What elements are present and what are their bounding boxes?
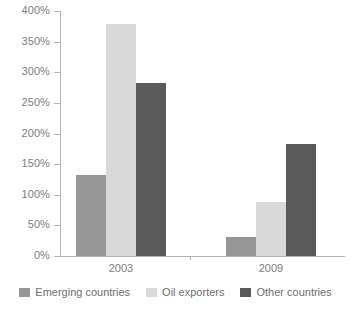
y-axis-tick-label: 150% [0, 158, 50, 169]
x-axis-group-separator [190, 256, 191, 260]
y-axis-tick-label: 350% [0, 36, 50, 47]
legend-item[interactable]: Other countries [240, 286, 331, 298]
legend-label: Emerging countries [35, 286, 130, 298]
y-axis-tick-label: 0% [0, 250, 50, 261]
y-axis-tick-label: 400% [0, 5, 50, 16]
bar [136, 83, 166, 256]
y-axis-tick-mark [54, 11, 60, 12]
bar [106, 24, 136, 256]
y-axis-tick-mark [54, 134, 60, 135]
y-axis-tick-mark [54, 256, 60, 257]
x-axis-label: 2003 [76, 262, 166, 275]
y-axis-tick-label: 300% [0, 66, 50, 77]
bar-chart: 400%350%300%250%200%150%100%50%0% 200320… [0, 0, 351, 309]
legend-item[interactable]: Oil exporters [146, 286, 224, 298]
legend-swatch-icon [240, 288, 251, 297]
bar [226, 237, 256, 256]
y-axis-tick-mark [54, 164, 60, 165]
bar [286, 144, 316, 256]
y-axis-tick-mark [54, 103, 60, 104]
legend-swatch-icon [19, 288, 30, 297]
bar [256, 202, 286, 256]
legend-label: Oil exporters [162, 286, 224, 298]
y-axis-tick-mark [54, 42, 60, 43]
legend-label: Other countries [256, 286, 331, 298]
x-axis-line [60, 256, 345, 257]
legend-item[interactable]: Emerging countries [19, 286, 130, 298]
legend-swatch-icon [146, 288, 157, 297]
x-axis-label: 2009 [226, 262, 316, 275]
y-axis-tick-label: 100% [0, 189, 50, 200]
y-axis-tick-label: 200% [0, 128, 50, 139]
y-axis-tick-mark [54, 225, 60, 226]
bar [76, 175, 106, 256]
y-axis-tick-mark [54, 72, 60, 73]
chart-legend: Emerging countriesOil exportersOther cou… [0, 286, 351, 298]
y-axis-tick-label: 250% [0, 97, 50, 108]
y-axis-line [60, 11, 61, 257]
y-axis-tick-label: 50% [0, 219, 50, 230]
y-axis-tick-mark [54, 195, 60, 196]
